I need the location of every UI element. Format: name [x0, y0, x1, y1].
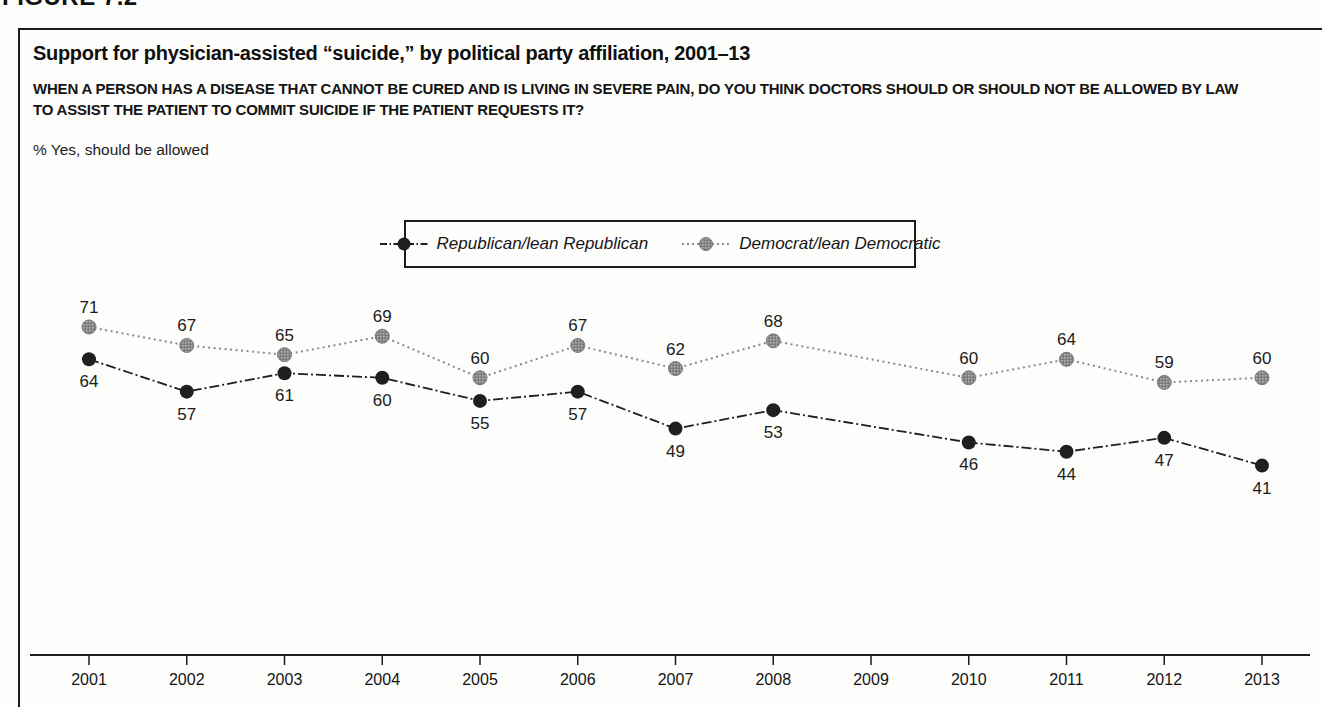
line-chart: 6457616055574953464447417167656960676268… — [30, 292, 1310, 704]
data-point-marker — [571, 338, 585, 352]
x-axis-tick-label: 2004 — [364, 671, 400, 688]
data-point-label: 60 — [959, 349, 978, 368]
data-point-marker — [766, 334, 780, 348]
x-axis-tick-label: 2006 — [560, 671, 596, 688]
chart-title: Support for physician-assisted “suicide,… — [33, 42, 750, 65]
x-axis-tick-label: 2013 — [1244, 671, 1280, 688]
legend-label-democrat: Democrat/lean Democratic — [739, 234, 940, 254]
data-point-label: 60 — [1253, 349, 1272, 368]
data-point-label: 41 — [1253, 479, 1272, 498]
data-point-label: 60 — [471, 349, 490, 368]
data-point-marker — [278, 348, 292, 362]
data-point-label: 61 — [275, 386, 294, 405]
x-axis-tick-label: 2009 — [853, 671, 889, 688]
data-point-marker — [82, 320, 96, 334]
democrat-line-marker-icon — [682, 236, 730, 252]
data-point-marker — [1157, 375, 1171, 389]
x-axis-tick-label: 2010 — [951, 671, 987, 688]
data-point-marker — [180, 338, 194, 352]
x-axis: 2001200220032004200520062007200820092010… — [30, 655, 1310, 688]
republican-line-marker-icon — [380, 236, 428, 252]
unit-note: % Yes, should be allowed — [33, 141, 209, 159]
legend-label-republican: Republican/lean Republican — [437, 234, 649, 254]
survey-question-line-2: TO ASSIST THE PATIENT TO COMMIT SUICIDE … — [33, 99, 1238, 120]
data-point-marker — [962, 435, 976, 449]
data-point-label: 59 — [1155, 353, 1174, 372]
data-point-label: 64 — [80, 372, 99, 391]
data-point-marker — [473, 371, 487, 385]
data-point-label: 60 — [373, 391, 392, 410]
data-point-label: 67 — [177, 316, 196, 335]
data-point-marker — [1157, 431, 1171, 445]
data-point-marker — [766, 403, 780, 417]
legend-item-democrat: Democrat/lean Democratic — [682, 234, 940, 254]
survey-question-line-1: WHEN A PERSON HAS A DISEASE THAT CANNOT … — [33, 78, 1238, 99]
data-point-marker — [180, 385, 194, 399]
data-point-label: 53 — [764, 423, 783, 442]
data-point-marker — [669, 422, 683, 436]
data-point-marker — [82, 352, 96, 366]
data-point-label: 68 — [764, 312, 783, 331]
data-point-label: 64 — [1057, 330, 1076, 349]
data-point-marker — [278, 366, 292, 380]
x-axis-tick-label: 2001 — [71, 671, 107, 688]
data-point-marker — [1060, 352, 1074, 366]
chart-series: 6457616055574953464447417167656960676268… — [80, 298, 1272, 498]
x-axis-tick-label: 2005 — [462, 671, 498, 688]
data-point-label: 57 — [177, 405, 196, 424]
data-point-marker — [1255, 371, 1269, 385]
data-point-label: 49 — [666, 442, 685, 461]
data-point-marker — [375, 371, 389, 385]
figure-label: FIGURE 7.2 — [2, 0, 138, 11]
data-point-marker — [473, 394, 487, 408]
legend: Republican/lean Republican Democrat/lean… — [404, 220, 916, 268]
legend-item-republican: Republican/lean Republican — [380, 234, 649, 254]
data-point-label: 55 — [471, 414, 490, 433]
data-point-label: 46 — [959, 455, 978, 474]
data-point-marker — [962, 371, 976, 385]
data-point-marker — [1060, 445, 1074, 459]
data-point-marker — [1255, 459, 1269, 473]
data-point-label: 62 — [666, 340, 685, 359]
data-point-marker — [669, 362, 683, 376]
data-point-label: 44 — [1057, 465, 1076, 484]
survey-question: WHEN A PERSON HAS A DISEASE THAT CANNOT … — [33, 78, 1238, 121]
data-point-label: 67 — [568, 316, 587, 335]
x-axis-tick-label: 2003 — [267, 671, 303, 688]
x-axis-tick-label: 2011 — [1049, 671, 1084, 688]
x-axis-tick-label: 2002 — [169, 671, 205, 688]
data-point-label: 47 — [1155, 451, 1174, 470]
data-point-label: 57 — [568, 405, 587, 424]
x-axis-tick-label: 2007 — [658, 671, 694, 688]
data-point-marker — [375, 329, 389, 343]
data-point-label: 71 — [80, 298, 99, 317]
data-point-label: 65 — [275, 326, 294, 345]
data-point-label: 69 — [373, 307, 392, 326]
x-axis-tick-label: 2012 — [1146, 671, 1182, 688]
data-point-marker — [571, 385, 585, 399]
x-axis-tick-label: 2008 — [755, 671, 791, 688]
